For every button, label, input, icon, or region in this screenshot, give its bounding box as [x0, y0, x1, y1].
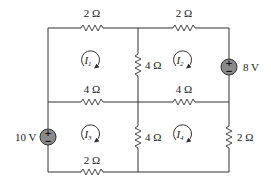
mesh-i1-subscript: 1 — [88, 60, 92, 68]
resistor-top-left-label: 2 Ω — [84, 7, 100, 19]
resistor-right-bottom-label: 2 Ω — [237, 131, 253, 143]
resistor-top-right: 2 Ω — [173, 7, 195, 31]
source-10v-label: 10 V — [15, 131, 37, 143]
resistor-right-bottom: 2 Ω — [226, 126, 253, 148]
resistor-mid-vertical-top: 4 Ω — [135, 54, 161, 76]
mesh-current-i2: I2 — [174, 51, 192, 68]
resistor-bottom-left: 2 Ω — [81, 154, 103, 175]
circuit-diagram: 2 Ω 2 Ω 4 Ω 4 Ω 2 Ω 4 Ω 4 Ω 2 Ω + − 8 V … — [0, 0, 271, 186]
source-8v-minus: − — [225, 66, 233, 76]
mesh-current-i4: I4 — [174, 125, 192, 142]
resistor-mid-right-label: 4 Ω — [176, 83, 192, 95]
mesh-current-i1: I1 — [82, 51, 100, 68]
svg-text:I3: I3 — [83, 128, 92, 142]
resistor-bottom-left-label: 2 Ω — [84, 154, 100, 166]
voltage-source-10v: + − 10 V — [15, 128, 56, 146]
svg-text:I1: I1 — [83, 54, 91, 68]
resistor-mid-left-label: 4 Ω — [84, 83, 100, 95]
resistor-top-left: 2 Ω — [81, 7, 103, 31]
mesh-i3-subscript: 3 — [87, 134, 92, 142]
mesh-i4-subscript: 4 — [180, 134, 184, 142]
resistor-mid-vertical-bottom-label: 4 Ω — [145, 131, 161, 143]
mesh-i2-subscript: 2 — [180, 60, 184, 68]
resistor-mid-left: 4 Ω — [81, 83, 103, 105]
mesh-current-i3: I3 — [82, 125, 100, 142]
resistor-mid-right: 4 Ω — [173, 83, 195, 105]
resistor-mid-vertical-top-label: 4 Ω — [145, 59, 161, 71]
svg-text:I4: I4 — [175, 128, 184, 142]
source-8v-label: 8 V — [243, 61, 259, 73]
voltage-source-8v: + − 8 V — [221, 58, 259, 76]
resistor-mid-vertical-bottom: 4 Ω — [135, 126, 161, 148]
svg-text:I2: I2 — [175, 54, 184, 68]
source-10v-minus: − — [44, 136, 52, 146]
resistor-top-right-label: 2 Ω — [176, 7, 192, 19]
wires — [48, 28, 229, 172]
